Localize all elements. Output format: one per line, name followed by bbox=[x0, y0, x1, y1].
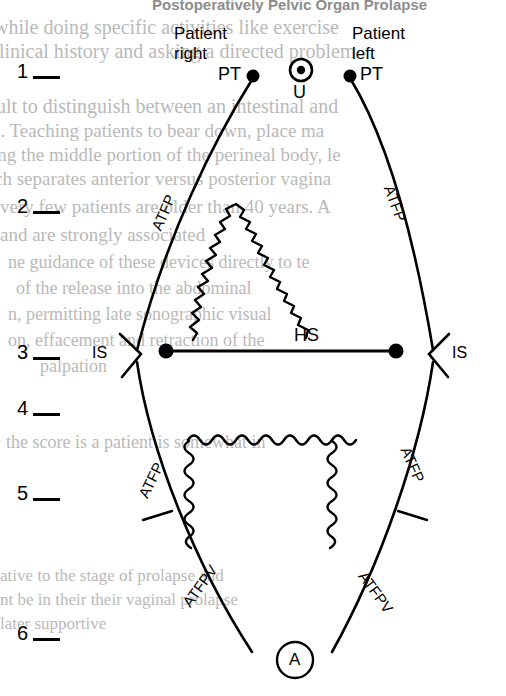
scale-level-5: 5 bbox=[6, 482, 28, 505]
anterior-wall-zigzag-outline bbox=[190, 204, 308, 340]
scale-tick-5 bbox=[33, 498, 60, 501]
posterior-wall-wavy-outline bbox=[188, 436, 356, 445]
pt-right-dot bbox=[344, 70, 357, 83]
scale-level-1: 1 bbox=[6, 60, 28, 83]
scale-level-3: 3 bbox=[6, 341, 28, 364]
hs-label: HS bbox=[294, 325, 319, 346]
anus-label: A bbox=[289, 650, 300, 670]
patient-left-label-line1: Patient bbox=[352, 24, 405, 43]
urethra-label: U bbox=[293, 82, 306, 103]
posterior-wall-right-edge bbox=[328, 441, 337, 548]
scale-tick-6 bbox=[33, 638, 60, 641]
is-left-label: IS bbox=[92, 344, 107, 362]
patient-left-label-line2: left bbox=[352, 44, 375, 63]
scale-tick-4 bbox=[33, 413, 60, 416]
diagram-page: Postoperatively Pelvic Organ Prolapse wh… bbox=[0, 0, 506, 696]
hs-left-dot bbox=[159, 344, 174, 359]
pelvic-support-svg bbox=[0, 0, 506, 696]
pt-right-label: PT bbox=[360, 64, 383, 85]
pt-left-label: PT bbox=[218, 64, 241, 85]
scale-tick-2 bbox=[33, 211, 60, 214]
tick-mark-left bbox=[143, 511, 172, 520]
patient-right-label-line2: right bbox=[174, 44, 207, 63]
scale-level-2: 2 bbox=[6, 195, 28, 218]
pt-left-dot bbox=[247, 70, 260, 83]
is-right-label: IS bbox=[452, 344, 467, 362]
tick-mark-right bbox=[398, 511, 427, 520]
scale-tick-3 bbox=[33, 357, 60, 360]
scale-tick-1 bbox=[33, 76, 60, 79]
scale-level-6: 6 bbox=[6, 622, 28, 645]
urethra-center-dot-icon bbox=[297, 66, 305, 74]
hs-right-dot bbox=[389, 344, 404, 359]
patient-right-label-line1: Patient bbox=[174, 24, 227, 43]
scale-level-4: 4 bbox=[6, 397, 28, 420]
